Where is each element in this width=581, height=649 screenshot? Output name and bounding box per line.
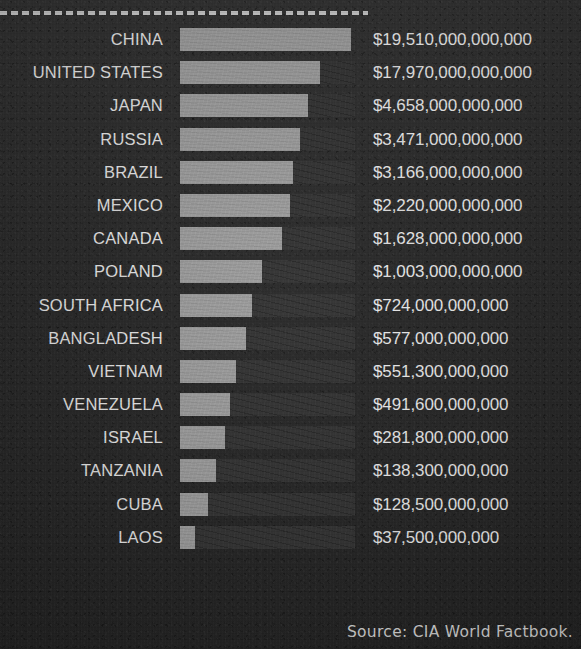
chart-row: UNITED STATES$17,970,000,000,000 [0, 61, 581, 84]
country-label: VENEZUELA [0, 393, 163, 416]
value-label: $3,166,000,000,000 [373, 161, 522, 184]
value-label: $37,500,000,000 [373, 526, 499, 549]
bar-fill [180, 493, 208, 516]
chart-row: CUBA$128,500,000,000 [0, 493, 581, 516]
source-note: Source: CIA World Factbook. [347, 623, 573, 641]
bar-track [180, 426, 355, 449]
country-label: BRAZIL [0, 161, 163, 184]
chart-row: ISRAEL$281,800,000,000 [0, 426, 581, 449]
country-label: TANZANIA [0, 459, 163, 482]
bar-track [180, 194, 355, 217]
bar-track [180, 61, 355, 84]
country-label: CANADA [0, 227, 163, 250]
value-label: $138,300,000,000 [373, 459, 508, 482]
chart-row: CANADA$1,628,000,000,000 [0, 227, 581, 250]
country-label: POLAND [0, 260, 163, 283]
bar-fill [180, 61, 320, 84]
chart-row: SOUTH AFRICA$724,000,000,000 [0, 294, 581, 317]
value-label: $577,000,000,000 [373, 327, 508, 350]
chart-row: BRAZIL$3,166,000,000,000 [0, 161, 581, 184]
bar-track [180, 327, 355, 350]
country-label: SOUTH AFRICA [0, 294, 163, 317]
value-label: $19,510,000,000,000 [373, 28, 532, 51]
bar-fill [180, 128, 300, 151]
value-label: $1,003,000,000,000 [373, 260, 522, 283]
bar-fill [180, 28, 351, 51]
chart-row: LAOS$37,500,000,000 [0, 526, 581, 549]
value-label: $281,800,000,000 [373, 426, 508, 449]
chart-row: CHINA$19,510,000,000,000 [0, 28, 581, 51]
chart-row: JAPAN$4,658,000,000,000 [0, 94, 581, 117]
bar-fill [180, 194, 290, 217]
chart-row: POLAND$1,003,000,000,000 [0, 260, 581, 283]
bar-track [180, 94, 355, 117]
bar-fill [180, 459, 216, 482]
bar-track [180, 360, 355, 383]
bar-track [180, 493, 355, 516]
value-label: $724,000,000,000 [373, 294, 508, 317]
value-label: $3,471,000,000,000 [373, 128, 522, 151]
country-label: CHINA [0, 28, 163, 51]
chart-row: VIETNAM$551,300,000,000 [0, 360, 581, 383]
bar-track [180, 459, 355, 482]
bar-fill [180, 260, 262, 283]
bar-fill [180, 426, 225, 449]
bar-fill [180, 327, 246, 350]
country-label: LAOS [0, 526, 163, 549]
value-label: $2,220,000,000,000 [373, 194, 522, 217]
value-label: $128,500,000,000 [373, 493, 508, 516]
chart-row: VENEZUELA$491,600,000,000 [0, 393, 581, 416]
country-label: RUSSIA [0, 128, 163, 151]
bar-track [180, 526, 355, 549]
bar-fill [180, 526, 195, 549]
country-label: VIETNAM [0, 360, 163, 383]
bar-track [180, 28, 355, 51]
value-label: $551,300,000,000 [373, 360, 508, 383]
value-label: $1,628,000,000,000 [373, 227, 522, 250]
value-label: $17,970,000,000,000 [373, 61, 532, 84]
bar-track [180, 128, 355, 151]
dashed-divider-line [0, 11, 368, 15]
bar-fill [180, 294, 252, 317]
bar-fill [180, 161, 293, 184]
bar-track [180, 161, 355, 184]
bar-track [180, 393, 355, 416]
country-label: MEXICO [0, 194, 163, 217]
chart-row: RUSSIA$3,471,000,000,000 [0, 128, 581, 151]
bar-fill [180, 393, 230, 416]
chart-rows-container: CHINA$19,510,000,000,000UNITED STATES$17… [0, 28, 581, 559]
bar-track [180, 260, 355, 283]
bar-fill [180, 360, 236, 383]
bar-track [180, 227, 355, 250]
value-label: $491,600,000,000 [373, 393, 508, 416]
value-label: $4,658,000,000,000 [373, 94, 522, 117]
chart-row: MEXICO$2,220,000,000,000 [0, 194, 581, 217]
country-label: BANGLADESH [0, 327, 163, 350]
country-label: UNITED STATES [0, 61, 163, 84]
country-label: JAPAN [0, 94, 163, 117]
country-label: CUBA [0, 493, 163, 516]
chart-row: TANZANIA$138,300,000,000 [0, 459, 581, 482]
gdp-bar-chart-infographic: CHINA$19,510,000,000,000UNITED STATES$17… [0, 0, 581, 649]
bar-fill [180, 94, 308, 117]
bar-track [180, 294, 355, 317]
country-label: ISRAEL [0, 426, 163, 449]
bar-fill [180, 227, 282, 250]
chart-row: BANGLADESH$577,000,000,000 [0, 327, 581, 350]
